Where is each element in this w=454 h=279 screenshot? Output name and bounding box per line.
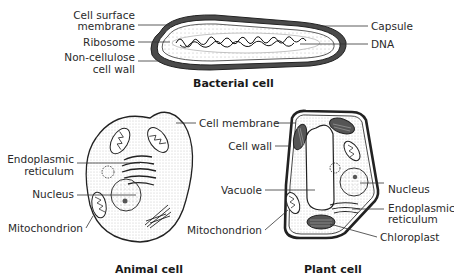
label-endoplasmic-reticulum-2: reticulum (24, 165, 74, 177)
label-non-cellulose-cell-wall: Non-cellulose (64, 51, 135, 63)
label-mitochondrion: Mitochondrion (8, 222, 83, 234)
plant-nucleus-shape (340, 168, 368, 196)
title-animal-cell: Animal cell (115, 263, 183, 276)
title-plant-cell: Plant cell (304, 263, 362, 276)
label-vacuole: Vacuole (221, 184, 262, 196)
bacterial-cell: Cell surface membrane Ribosome Non-cellu… (64, 9, 413, 90)
label-cell-surface-membrane-2: membrane (78, 20, 135, 32)
vacuole-shape (306, 125, 334, 210)
label-non-cellulose-cell-wall-2: cell wall (93, 63, 135, 75)
label-endoplasmic-reticulum-plant-2: reticulum (388, 213, 438, 225)
label-endoplasmic-reticulum: Endoplasmic (7, 153, 74, 165)
plant-cell: Cell membrane Cell wall Vacuole Mitochon… (187, 111, 454, 276)
label-chloroplast: Chloroplast (380, 231, 439, 243)
label-cell-wall: Cell wall (228, 140, 272, 152)
label-mitochondrion-plant: Mitochondrion (187, 224, 262, 236)
label-ribosome: Ribosome (83, 36, 135, 48)
title-bacterial-cell: Bacterial cell (193, 77, 274, 90)
label-nucleus: Nucleus (32, 188, 74, 200)
cell-diagram: Cell surface membrane Ribosome Non-cellu… (0, 0, 454, 279)
animal-cell-membrane (86, 112, 192, 242)
label-capsule: Capsule (371, 20, 413, 32)
label-cell-membrane: Cell membrane (199, 117, 279, 129)
label-nucleus-plant: Nucleus (388, 183, 430, 195)
label-dna: DNA (371, 38, 395, 50)
